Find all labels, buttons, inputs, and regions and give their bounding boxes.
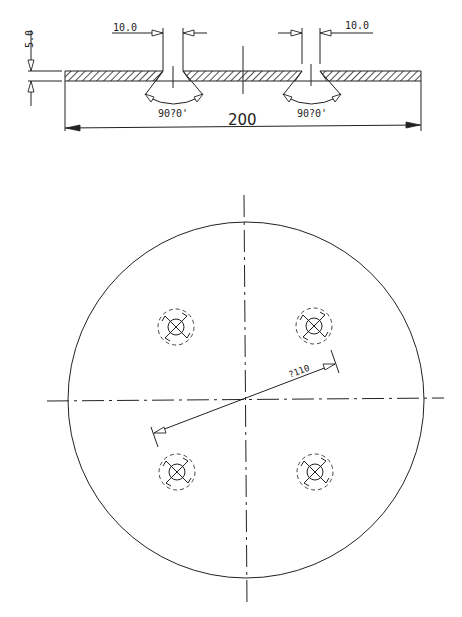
length-label: 200	[228, 111, 257, 129]
width-dimension-left: 10.0	[112, 22, 207, 71]
technical-drawing: 90?0' 90?0' 10.0	[0, 0, 462, 617]
vertical-center-line	[244, 195, 247, 605]
hole-top-left	[158, 309, 194, 345]
thickness-dimension: 5.0	[24, 30, 62, 106]
thickness-label: 5.0	[24, 30, 35, 48]
angle-label-right: 90?0'	[297, 108, 327, 119]
width-dimension-right: 10.0	[278, 20, 373, 64]
width-label-left: 10.0	[113, 22, 137, 33]
angle-label-left: 90?0'	[158, 108, 188, 119]
plan-view: ?110	[47, 195, 444, 605]
hole-bottom-right	[297, 454, 333, 490]
width-label-right: 10.0	[345, 20, 369, 31]
section-view: 90?0' 90?0' 10.0	[24, 20, 421, 131]
hole-top-right	[296, 308, 332, 344]
hole-bottom-left	[159, 454, 195, 490]
